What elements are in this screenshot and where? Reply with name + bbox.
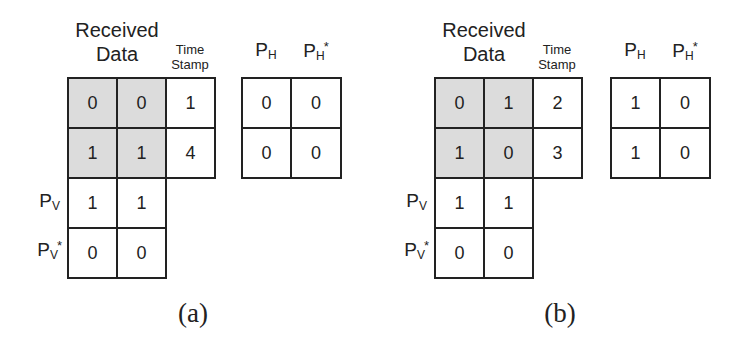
pv-sub: V <box>419 199 427 213</box>
timestamp-cell: 2 <box>532 77 583 129</box>
phs-base: P <box>303 40 316 61</box>
header-line: Data <box>62 42 172 66</box>
ph-header: PH <box>610 40 660 61</box>
header-line: Received <box>62 18 172 42</box>
pvs-sup: * <box>57 238 62 253</box>
caption-b: (b) <box>520 298 600 329</box>
data-cell: 1 <box>483 77 534 129</box>
ph-star-cell: 0 <box>659 77 711 129</box>
phs-sup: * <box>324 39 329 54</box>
pv-star-cell: 0 <box>67 227 118 279</box>
pv-label: PV <box>10 190 60 213</box>
ph-cell: 1 <box>610 127 661 179</box>
pv-star-cell: 0 <box>483 227 534 279</box>
timestamp-header: Time Stamp <box>529 42 585 72</box>
timestamp-cell: 3 <box>532 127 583 179</box>
data-cell: 0 <box>434 77 485 129</box>
caption-a: (a) <box>153 298 233 329</box>
ph-header: PH <box>241 40 291 61</box>
ph-star-header: PH* <box>291 40 341 62</box>
pv-sub: V <box>52 199 60 213</box>
pv-base: P <box>39 190 52 211</box>
ph-base: P <box>624 39 637 60</box>
ph-sub: H <box>268 48 277 62</box>
pv-cell: 1 <box>483 177 534 229</box>
panel-a: Received Data Time Stamp PH PH* 0 0 1 1 … <box>0 0 368 352</box>
pvs-sup: * <box>424 238 429 253</box>
pv-cell: 1 <box>116 177 167 229</box>
header-line: Received <box>429 18 539 42</box>
ph-cell: 0 <box>241 77 292 129</box>
pv-cell: 1 <box>434 177 485 229</box>
ph-star-cell: 0 <box>290 127 342 179</box>
header-line: Data <box>429 42 539 66</box>
received-data-header: Received Data <box>429 18 539 66</box>
data-cell: 1 <box>116 127 167 179</box>
pv-star-cell: 0 <box>116 227 167 279</box>
pv-star-label: PV* <box>379 238 429 262</box>
panel-b: Received Data Time Stamp PH PH* 0 1 2 1 … <box>367 0 735 352</box>
pvs-base: P <box>404 239 417 260</box>
ph-star-cell: 0 <box>659 127 711 179</box>
header-line: Time <box>529 42 585 57</box>
ph-star-cell: 0 <box>290 77 342 129</box>
pv-star-label: PV* <box>12 238 62 262</box>
ph-cell: 0 <box>241 127 292 179</box>
timestamp-cell: 4 <box>165 127 216 179</box>
received-data-header: Received Data <box>62 18 172 66</box>
ph-star-header: PH* <box>660 40 710 62</box>
timestamp-header: Time Stamp <box>162 42 218 72</box>
pv-star-cell: 0 <box>434 227 485 279</box>
data-cell: 0 <box>483 127 534 179</box>
pvs-base: P <box>37 239 50 260</box>
pv-label: PV <box>377 190 427 213</box>
phs-sup: * <box>693 39 698 54</box>
data-cell: 1 <box>434 127 485 179</box>
pv-base: P <box>406 190 419 211</box>
timestamp-cell: 1 <box>165 77 216 129</box>
ph-cell: 1 <box>610 77 661 129</box>
phs-base: P <box>672 40 685 61</box>
data-cell: 0 <box>116 77 167 129</box>
data-cell: 0 <box>67 77 118 129</box>
pv-cell: 1 <box>67 177 118 229</box>
ph-base: P <box>255 39 268 60</box>
header-line: Time <box>162 42 218 57</box>
header-line: Stamp <box>529 57 585 72</box>
header-line: Stamp <box>162 57 218 72</box>
data-cell: 1 <box>67 127 118 179</box>
ph-sub: H <box>637 48 646 62</box>
